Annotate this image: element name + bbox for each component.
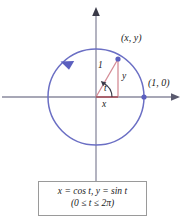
caption-line-range: (0 ≤ t ≤ 2π) [41, 198, 144, 210]
caption-line-equations: x = cos t, y = sin t [41, 186, 144, 198]
y-axis [92, 7, 100, 200]
point-one-zero-dot [141, 94, 146, 99]
point-on-circle-dot [115, 56, 120, 61]
y-axis-arrow-up-icon [92, 7, 100, 16]
x-axis-arrow-right-icon [171, 93, 180, 101]
label-point-one-zero: (1, 0) [148, 78, 170, 88]
circle-direction-arrow-left-icon [61, 61, 75, 70]
label-vertical-leg-y: y [122, 72, 126, 82]
x-axis [2, 93, 180, 101]
label-point-xy: (x, y) [121, 33, 142, 43]
label-radius-one: 1 [98, 61, 103, 71]
label-angle-t: t [104, 84, 107, 94]
label-horizontal-leg-x: x [102, 100, 106, 110]
caption-box: x = cos t, y = sin t (0 ≤ t ≤ 2π) [38, 181, 147, 216]
unit-circle-figure: (x, y) (1, 0) 1 y x t x = cos t, y = sin… [0, 0, 185, 220]
marked-points [115, 56, 146, 99]
